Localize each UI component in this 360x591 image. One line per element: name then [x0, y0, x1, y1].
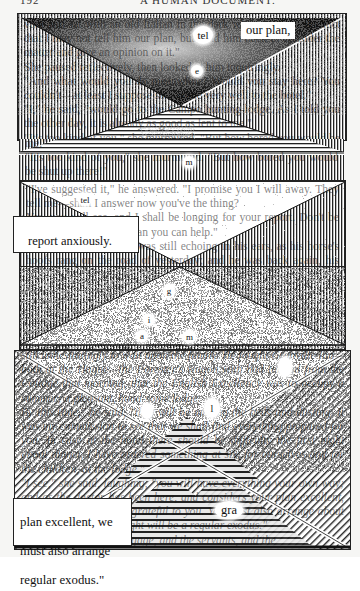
- bubble-m-2: m: [183, 330, 196, 343]
- bubble-empty-1: [278, 357, 292, 377]
- separator-band: me." "It's too kind of you," she murmure…: [19, 139, 344, 180]
- bubble-tel-2: tel: [78, 193, 92, 206]
- caption-plan-excellent: plan excellent, we must also arrange reg…: [13, 498, 132, 546]
- bubble-i: i: [143, 314, 155, 326]
- panel-1-pattern: [18, 14, 346, 140]
- caption-line-plan-excellent: plan excellent, we: [20, 515, 125, 530]
- caption-our-plan: our plan,: [241, 22, 295, 39]
- caption-line-1: report anxiously.: [20, 234, 132, 249]
- bubble-l: l: [204, 398, 220, 418]
- bubble-e: e: [191, 65, 203, 77]
- bubble-empty-2: [141, 403, 153, 419]
- caption-line-regular-exodus: regular exodus.": [20, 573, 125, 588]
- caption-report-anxiously: report anxiously. "can help.": [13, 216, 139, 253]
- bubble-tel: tel: [193, 26, 213, 44]
- separator-pattern: [19, 139, 344, 180]
- bubble-g: g: [163, 284, 175, 298]
- bubble-gra: gra: [215, 501, 243, 519]
- panel-night-sky: vant and sat with an old Italian in the …: [17, 13, 347, 141]
- bubble-a: a: [136, 330, 148, 342]
- bubble-m: m: [183, 156, 195, 168]
- running-title: A HUMAN DOCUMENT.: [140, 0, 276, 6]
- page-number: 192: [20, 0, 40, 6]
- caption-line-must-also: must also arrange: [20, 544, 125, 559]
